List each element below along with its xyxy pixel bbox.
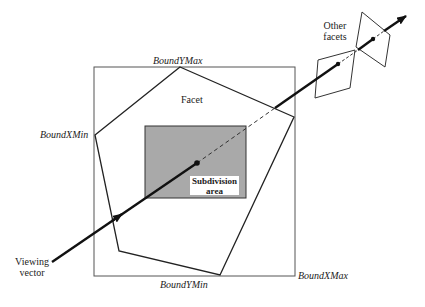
viewing-vector-solid-2 [275,64,338,108]
label-bound-y-max: BoundYMax [153,55,202,66]
label-subdivision-line1: Subdivision [190,176,239,186]
label-facet: Facet [181,94,203,105]
diagram-canvas [0,0,425,307]
label-viewing-vector-line1: Viewing [12,256,52,267]
label-subdivision-area: Subdivision area [190,176,239,196]
viewing-vector-arrowhead-1 [112,214,122,221]
label-other-facets-line1: Other [318,20,352,31]
label-other-facets-line2: facets [318,31,352,42]
viewing-vector-solid-4 [384,16,406,31]
label-bound-x-max: BoundXMax [298,270,348,281]
label-bound-x-min: BoundXMin [40,129,88,140]
intersection-dot-facet-1 [336,62,340,66]
viewing-vector-solid-3 [358,39,373,50]
label-subdivision-line2: area [190,186,239,196]
label-bound-y-min: BoundYMin [160,279,208,290]
intersection-dot-subdivision [194,160,200,166]
viewing-vector-solid-1 [52,163,197,262]
label-viewing-vector: Viewing vector [12,256,52,278]
label-other-facets: Other facets [318,20,352,42]
label-viewing-vector-line2: vector [12,267,52,278]
other-facet-1 [315,50,355,98]
intersection-dot-facet-2 [371,37,375,41]
